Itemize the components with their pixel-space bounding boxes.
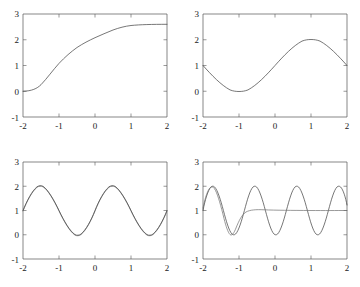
xtick-0: 0 (93, 121, 98, 131)
xtick-0: 0 (273, 263, 278, 273)
xtick-2: 2 (165, 263, 170, 273)
figure-grid: 3 2 1 0 -1 -2 -1 0 1 2 (0, 0, 360, 287)
ytick-1: 1 (15, 206, 20, 216)
panel-bottom-left: 3 2 1 0 -1 -2 -1 0 1 2 (0, 145, 180, 287)
ytick-2: 2 (15, 182, 20, 192)
ytick-1: 1 (195, 206, 200, 216)
xtick-neg2: -2 (19, 121, 27, 131)
ytick-3: 3 (15, 9, 20, 19)
xtick-neg1: -1 (235, 121, 243, 131)
panel-bottom-right: 3 2 1 0 -1 -2 -1 0 1 2 (180, 145, 360, 287)
xtick-1: 1 (309, 121, 314, 131)
ytick-neg1: -1 (12, 255, 20, 265)
plot-top-right: 3 2 1 0 -1 -2 -1 0 1 2 (180, 0, 360, 145)
ytick-2: 2 (195, 35, 200, 45)
axes-frame-top-left (23, 14, 167, 117)
ytick-neg1: -1 (192, 113, 200, 123)
xtick-0: 0 (273, 121, 278, 131)
plot-top-left: 3 2 1 0 -1 -2 -1 0 1 2 (0, 0, 180, 145)
x-ticks-top-left (59, 14, 131, 117)
xtick-1: 1 (129, 263, 134, 273)
xtick-neg1: -1 (55, 121, 63, 131)
ytick-1: 1 (195, 61, 200, 71)
xtick-1: 1 (129, 121, 134, 131)
ytick-1: 1 (15, 61, 20, 71)
plot-bottom-right: 3 2 1 0 -1 -2 -1 0 1 2 (180, 145, 360, 287)
xtick-2: 2 (345, 263, 350, 273)
ytick-3: 3 (195, 157, 200, 167)
xtick-neg1: -1 (55, 263, 63, 273)
ytick-0: 0 (195, 87, 200, 97)
plot-bottom-left: 3 2 1 0 -1 -2 -1 0 1 2 (0, 145, 180, 287)
y-ticks-top-left (23, 40, 167, 92)
ytick-2: 2 (195, 182, 200, 192)
ytick-3: 3 (195, 9, 200, 19)
panel-top-right: 3 2 1 0 -1 -2 -1 0 1 2 (180, 0, 360, 145)
xtick-neg2: -2 (19, 263, 27, 273)
panel-top-left: 3 2 1 0 -1 -2 -1 0 1 2 (0, 0, 180, 145)
ytick-neg1: -1 (192, 255, 200, 265)
curve-second-partial-sum (203, 40, 347, 92)
ytick-0: 0 (15, 230, 20, 240)
xtick-0: 0 (93, 263, 98, 273)
ytick-3: 3 (15, 157, 20, 167)
curve-converged-limit (203, 187, 347, 235)
xtick-neg2: -2 (199, 263, 207, 273)
ytick-2: 2 (15, 35, 20, 45)
xtick-1: 1 (309, 263, 314, 273)
curve-first-partial-sum (23, 24, 167, 91)
xtick-neg1: -1 (235, 263, 243, 273)
xtick-2: 2 (165, 121, 170, 131)
ytick-0: 0 (195, 230, 200, 240)
curve-third-partial-sum (23, 186, 167, 236)
xtick-2: 2 (345, 121, 350, 131)
ytick-0: 0 (15, 87, 20, 97)
xtick-neg2: -2 (199, 121, 207, 131)
ytick-neg1: -1 (12, 113, 20, 123)
